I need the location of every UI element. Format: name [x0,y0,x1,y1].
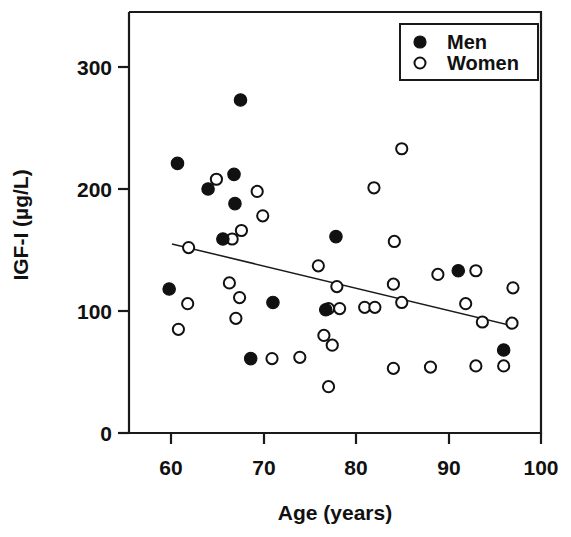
data-point [211,174,222,185]
data-point [507,282,518,293]
x-axis-ticks [171,433,541,444]
series-men-points [163,94,510,365]
data-point [320,304,332,316]
data-point [252,186,263,197]
x-tick-label-80: 80 [344,456,367,479]
data-point [313,260,324,271]
y-tick-label-200: 200 [77,178,112,201]
legend-label-women: Women [447,52,519,74]
data-point [294,352,305,363]
data-point [497,344,509,356]
data-point [234,292,245,303]
data-point [368,182,379,193]
data-point [173,324,184,335]
data-point [389,236,400,247]
x-tick-label-90: 90 [437,456,460,479]
data-point [396,297,407,308]
data-point [318,330,329,341]
x-tick-label-100: 100 [523,456,558,479]
data-point [266,353,277,364]
legend-label-men: Men [447,31,487,53]
y-axis-ticks [118,67,129,433]
y-tick-label-300: 300 [77,56,112,79]
x-tick-label-60: 60 [159,456,182,479]
data-point [498,360,509,371]
data-point [229,197,241,209]
data-point [425,362,436,373]
data-point [477,316,488,327]
data-point [234,94,246,106]
y-tick-labels: 300 200 100 0 [77,56,112,445]
data-point [432,269,443,280]
data-point [257,210,268,221]
data-point [182,298,193,309]
data-point [330,230,342,242]
data-point [183,242,194,253]
data-point [228,168,240,180]
legend-marker-men [414,36,426,48]
data-point [388,279,399,290]
x-tick-labels: 60 70 80 90 100 [159,456,558,479]
x-tick-label-70: 70 [252,456,275,479]
legend: Men Women [400,24,538,80]
data-point [369,302,380,313]
scatter-plot: 300 200 100 0 60 70 80 90 100 Age (years… [0,0,571,537]
x-axis-title: Age (years) [278,501,392,524]
data-point [334,303,345,314]
data-point [224,277,235,288]
chart-figure: 300 200 100 0 60 70 80 90 100 Age (years… [0,0,571,537]
legend-marker-women [415,58,426,69]
data-point [267,296,279,308]
data-point [202,183,214,195]
data-point [506,318,517,329]
y-axis-title: IGF-I (µg/L) [9,169,32,280]
data-point [470,265,481,276]
data-point [388,363,399,374]
data-point [244,352,256,364]
data-point [230,313,241,324]
data-point [217,233,229,245]
data-point [163,283,175,295]
data-point [470,360,481,371]
data-point [396,143,407,154]
y-tick-label-0: 0 [100,422,112,445]
data-point [236,225,247,236]
data-point [331,281,342,292]
data-point [460,298,471,309]
series-women-points [173,143,519,392]
data-point [323,381,334,392]
data-point [452,265,464,277]
data-point [171,157,183,169]
y-tick-label-100: 100 [77,300,112,323]
data-point [327,340,338,351]
